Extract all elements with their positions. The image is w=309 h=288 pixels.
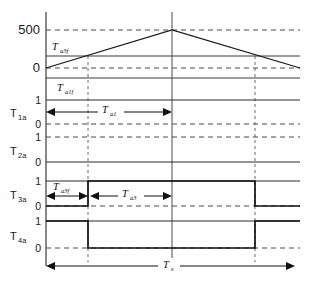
dim-ts-arrow-left (46, 262, 55, 270)
waveform-T4a (46, 221, 300, 248)
row-label-T1a: T (10, 107, 17, 119)
dim-ta3f-arrow-left (46, 192, 55, 200)
dim-ta1-arrow-left (46, 108, 55, 116)
row-T4a-tick-0: 0 (35, 242, 41, 254)
row-T1a-tick-0: 0 (35, 118, 41, 130)
dim-ts-arrow-right (286, 262, 295, 270)
row-label-T3a-sub: 3a (18, 195, 27, 204)
row-T4a-tick-1: 1 (35, 215, 41, 227)
dim-ta1-label-sub: a1 (110, 110, 117, 117)
dim-ta3-label-sub: a3 (130, 194, 137, 201)
reference-label-a3f-sub: a3f (60, 47, 70, 54)
row-T2a-tick-0: 0 (35, 156, 41, 168)
reference-label-a1f-sub: a1f (65, 88, 75, 95)
dim-ta3f-label-sub: a3f (61, 187, 71, 194)
row-label-T3a: T (10, 189, 17, 201)
dim-ts-label-bg (158, 258, 180, 270)
row-label-T4a: T (10, 230, 17, 242)
dim-ta3f-arrow-right (79, 192, 88, 200)
row-label-T2a-sub: 2a (18, 151, 27, 160)
waveform-T3a (46, 181, 300, 206)
dim-ta3-arrow-left (90, 192, 99, 200)
y-tick-500: 500 (18, 22, 40, 37)
row-T3a-tick-0: 0 (35, 200, 41, 212)
row-T1a-tick-1: 1 (35, 94, 41, 106)
dim-ta3-arrow-right (163, 192, 172, 200)
pwm-timing-figure: 500 0 T a3f T a1f 1 0 T 1a T a1 1 0 T 2a… (0, 0, 309, 288)
triangular-carrier (46, 30, 300, 68)
row-label-T1a-sub: 1a (18, 113, 27, 122)
reference-label-a3f: T (52, 41, 59, 52)
reference-label-a1f: T (57, 82, 64, 93)
row-T2a-tick-1: 1 (35, 131, 41, 143)
y-tick-0: 0 (33, 60, 40, 75)
row-label-T4a-sub: 4a (18, 236, 27, 245)
row-label-T2a: T (10, 145, 17, 157)
dim-ta1-arrow-right (163, 108, 172, 116)
row-T3a-tick-1: 1 (35, 175, 41, 187)
dim-ta3f-label: T (53, 181, 60, 192)
